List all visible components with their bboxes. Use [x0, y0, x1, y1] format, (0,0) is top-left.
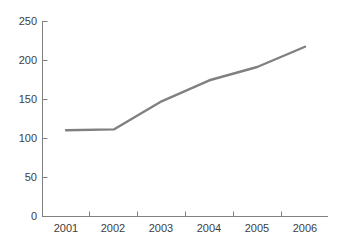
x-tick-label: 2002: [101, 222, 125, 234]
y-tick-label: 200: [19, 54, 37, 66]
x-tick-label: 2006: [293, 222, 317, 234]
y-tick-label: 250: [19, 15, 37, 27]
y-tick-label: 150: [19, 93, 37, 105]
x-tick-label: 2005: [245, 222, 269, 234]
x-tick-label: 2001: [54, 222, 78, 234]
chart-background: [0, 0, 344, 250]
y-tick-label: 100: [19, 132, 37, 144]
y-tick-label: 50: [25, 171, 37, 183]
chart-canvas: 250 200 150 100 50 0 2001 2002 2003 2004…: [0, 0, 344, 250]
y-tick-label: 0: [31, 210, 37, 222]
x-tick-label: 2003: [149, 222, 173, 234]
line-chart: 250 200 150 100 50 0 2001 2002 2003 2004…: [0, 0, 344, 250]
x-tick-label: 2004: [197, 222, 221, 234]
